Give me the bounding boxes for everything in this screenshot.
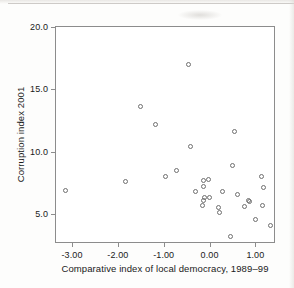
x-tick-label: 0.00 [201, 250, 219, 260]
x-tick-mark [118, 242, 119, 247]
y-axis-title: Corruption index 2001 [14, 26, 28, 243]
x-axis-title: Comparative index of local democracy, 19… [55, 263, 275, 274]
y-axis-title-text: Corruption index 2001 [16, 87, 27, 183]
y-tick-label: 15.0 [30, 84, 48, 94]
scatter-point [188, 144, 193, 149]
y-tick-label: 5.0 [35, 209, 48, 219]
plot-area: 5.010.015.020.0 -3.00-2.00-1.000.001.00 [55, 26, 275, 243]
scatter-point [230, 163, 235, 168]
scatter-point [268, 223, 273, 228]
scatter-point [200, 203, 205, 208]
scatter-point [232, 129, 237, 134]
scatter-point [63, 188, 68, 193]
scatter-point [242, 204, 247, 209]
x-tick-mark [72, 242, 73, 247]
scatter-point [206, 177, 211, 182]
scatter-point [220, 189, 225, 194]
scan-edge-right [289, 0, 294, 288]
scatter-point [123, 179, 128, 184]
y-tick-label: 20.0 [30, 22, 48, 32]
scatter-point [174, 168, 179, 173]
scatter-point [138, 104, 143, 109]
scatter-points-layer [56, 27, 274, 242]
scatter-point [228, 234, 233, 239]
scatter-point [261, 185, 266, 190]
x-tick-mark [210, 242, 211, 247]
scatter-point [193, 189, 198, 194]
scatter-point [186, 62, 191, 67]
y-tick-label: 10.0 [30, 147, 48, 157]
scan-smudge [178, 10, 222, 20]
x-tick-label: 1.00 [246, 250, 264, 260]
scatter-point [259, 174, 264, 179]
scatter-point [253, 217, 258, 222]
x-tick-label: -3.00 [62, 250, 83, 260]
figure-canvas: Corruption index 2001 5.010.015.020.0 -3… [0, 0, 294, 288]
scatter-point [201, 184, 206, 189]
scatter-point [260, 203, 265, 208]
scatter-point [217, 210, 222, 215]
x-tick-label: -2.00 [107, 250, 128, 260]
scatter-point [163, 174, 168, 179]
scatter-point [235, 192, 240, 197]
x-tick-label: -1.00 [153, 250, 174, 260]
scan-edge-rule [8, 3, 294, 4]
x-tick-mark [255, 242, 256, 247]
scatter-point [153, 122, 158, 127]
scatter-point [207, 195, 212, 200]
scatter-point [247, 199, 252, 204]
x-tick-mark [164, 242, 165, 247]
